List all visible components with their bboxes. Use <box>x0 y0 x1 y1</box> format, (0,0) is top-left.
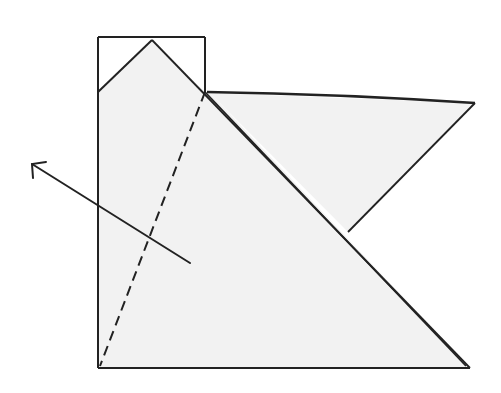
origami-diagram: Folded paper model with a flap; dashed v… <box>0 0 501 393</box>
paper-body <box>98 40 475 368</box>
